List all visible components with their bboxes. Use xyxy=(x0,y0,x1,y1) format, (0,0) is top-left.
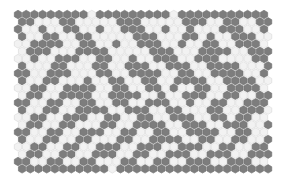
hex-cell xyxy=(51,121,58,130)
hex-cell xyxy=(137,25,144,34)
hex-cell xyxy=(203,98,210,107)
hex-cell xyxy=(191,76,198,85)
hex-cell xyxy=(14,25,21,34)
hex-cell xyxy=(14,157,21,166)
hex-cell xyxy=(199,165,206,174)
hex-cell xyxy=(150,165,157,174)
hex-cell xyxy=(23,10,30,19)
hex-cell xyxy=(129,143,136,152)
hex-cell xyxy=(121,25,128,34)
hex-cell xyxy=(64,157,71,166)
hex-cell xyxy=(182,47,189,56)
hex-cell xyxy=(92,121,99,130)
hex-cell xyxy=(14,40,21,49)
hex-cell xyxy=(158,32,165,41)
hex-cell xyxy=(215,165,222,174)
hex-cell xyxy=(248,18,255,27)
hex-cell xyxy=(228,113,235,122)
hex-cell xyxy=(240,91,247,100)
hex-cell xyxy=(174,32,181,41)
hex-cell xyxy=(215,32,222,41)
hex-cell xyxy=(166,150,173,159)
hex-cell xyxy=(133,135,140,144)
hex-cell xyxy=(76,91,83,100)
hex-cell xyxy=(256,62,263,70)
hex-cell xyxy=(31,128,38,137)
hex-cell xyxy=(23,143,30,152)
hex-cell xyxy=(187,25,194,34)
hex-cell xyxy=(100,165,107,174)
hex-cell xyxy=(18,91,25,100)
hex-cell xyxy=(187,10,194,19)
hex-cell xyxy=(154,40,161,49)
hex-cell xyxy=(133,76,140,85)
hex-cell xyxy=(232,135,239,144)
hex-cell xyxy=(96,143,103,152)
hex-cell xyxy=(113,157,120,166)
hex-cell xyxy=(88,84,95,93)
hex-cell xyxy=(252,84,259,93)
hex-cell xyxy=(92,47,99,56)
hex-cell xyxy=(51,135,58,144)
hex-cell xyxy=(211,128,218,137)
hex-cell xyxy=(68,135,75,144)
hex-cell xyxy=(236,10,243,19)
hex-cell xyxy=(174,165,181,174)
hex-cell xyxy=(162,40,169,49)
hex-cell xyxy=(248,121,255,130)
hex-cell xyxy=(178,128,185,137)
hex-cell xyxy=(228,128,235,137)
hex-cell xyxy=(137,157,144,166)
hex-cell xyxy=(170,157,177,166)
hex-cell xyxy=(162,84,169,93)
hex-cell xyxy=(248,62,255,70)
hex-cell xyxy=(51,18,58,27)
hex-cell xyxy=(14,128,21,137)
hex-cell xyxy=(27,18,34,27)
hex-cell xyxy=(223,121,230,130)
hex-cell xyxy=(256,135,263,144)
hex-cell xyxy=(51,76,58,85)
hex-cell xyxy=(203,84,210,93)
hex-cell xyxy=(260,157,267,166)
hex-cell xyxy=(170,113,177,122)
hex-cell xyxy=(146,143,153,152)
hex-cell xyxy=(23,84,30,93)
hex-cell xyxy=(55,84,62,93)
hex-cell xyxy=(80,98,87,107)
hex-cell xyxy=(146,25,153,34)
hex-cell xyxy=(88,143,95,152)
hex-cell xyxy=(68,91,75,100)
hex-cell xyxy=(256,76,263,85)
hex-cell xyxy=(187,128,194,137)
hex-cell xyxy=(187,54,194,63)
hex-cell xyxy=(23,128,30,137)
hex-cell xyxy=(113,25,120,34)
hex-cell xyxy=(146,69,153,78)
hex-cell xyxy=(31,84,38,93)
hex-cell xyxy=(211,40,218,49)
hex-cell xyxy=(27,47,34,56)
hex-cell xyxy=(68,32,75,41)
hex-cell xyxy=(158,62,165,70)
hex-cell xyxy=(68,106,75,115)
hex-cell xyxy=(141,62,148,70)
hex-cell xyxy=(260,84,267,93)
hex-cell xyxy=(39,84,46,93)
hex-cell xyxy=(14,84,21,93)
hex-cell xyxy=(223,47,230,56)
hex-cell xyxy=(55,40,62,49)
hex-cell xyxy=(113,98,120,107)
hex-cell xyxy=(31,113,38,122)
hex-cell xyxy=(59,32,66,41)
hex-cell xyxy=(35,165,42,174)
hex-cell xyxy=(182,76,189,85)
hex-cell xyxy=(113,84,120,93)
hex-cell xyxy=(211,69,218,78)
hex-cell xyxy=(260,143,267,152)
hex-cell xyxy=(232,32,239,41)
hex-cell xyxy=(232,62,239,70)
hex-cell xyxy=(182,121,189,130)
hex-cell xyxy=(141,47,148,56)
hex-cell xyxy=(121,98,128,107)
